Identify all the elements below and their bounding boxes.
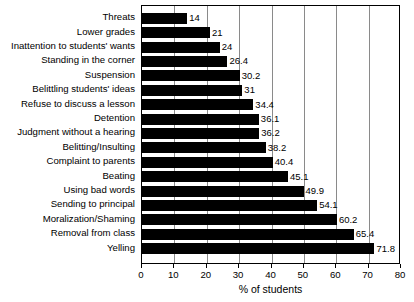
bar-value-label: 21 (210, 26, 223, 39)
x-tick-label-10: 10 (168, 269, 179, 281)
bar-value-label: 71.8 (374, 242, 395, 255)
x-tick-mark-30 (238, 264, 239, 268)
bar-value-label: 38.2 (266, 141, 287, 154)
bar (142, 171, 288, 182)
x-tick-label-70: 70 (362, 269, 373, 281)
bar (142, 13, 187, 24)
x-tick-label-80: 80 (395, 269, 406, 281)
bar (142, 85, 242, 96)
bar-value-label: 14 (187, 11, 200, 24)
x-axis-title: % of students (141, 283, 400, 295)
x-tick-label-40: 40 (265, 269, 276, 281)
bars-layer: 14212426.430.23134.436.136.238.240.445.1… (142, 6, 399, 263)
bar (142, 99, 253, 110)
bar (142, 128, 259, 139)
bar (142, 70, 240, 81)
x-tick-mark-60 (335, 264, 336, 268)
bar-value-label: 65.4 (354, 227, 375, 240)
bar-value-label: 45.1 (288, 170, 309, 183)
x-tick-label-60: 60 (330, 269, 341, 281)
x-tick-label-0: 0 (138, 269, 143, 281)
bar (142, 157, 273, 168)
x-tick-mark-80 (400, 264, 401, 268)
bar-value-label: 31 (242, 83, 255, 96)
bar-value-label: 26.4 (227, 54, 248, 67)
bar-chart: ThreatsLower gradesInattention to studen… (0, 0, 414, 302)
bar (142, 200, 317, 211)
bar-value-label: 36.1 (259, 112, 280, 125)
category-label: Yelling (107, 240, 135, 256)
x-tick-mark-70 (368, 264, 369, 268)
x-tick-mark-50 (303, 264, 304, 268)
x-tick-label-20: 20 (200, 269, 211, 281)
bar (142, 186, 304, 197)
x-tick-label-30: 30 (233, 269, 244, 281)
bar (142, 114, 259, 125)
bar-value-label: 34.4 (253, 98, 274, 111)
x-axis: 01020304050607080 (141, 264, 400, 284)
x-tick-mark-10 (173, 264, 174, 268)
bar-value-label: 60.2 (337, 213, 358, 226)
bar-value-label: 36.2 (259, 126, 280, 139)
bar-value-label: 30.2 (240, 69, 261, 82)
bar-value-label: 49.9 (304, 184, 325, 197)
bar-value-label: 40.4 (273, 155, 294, 168)
bar (142, 42, 220, 53)
bar (142, 243, 374, 254)
bar-value-label: 54.1 (317, 198, 338, 211)
bar-row: 71.8 (142, 241, 399, 257)
bar-value-label: 24 (220, 40, 233, 53)
plot-area: 14212426.430.23134.436.136.238.240.445.1… (141, 5, 400, 264)
x-tick-mark-0 (141, 264, 142, 268)
bar (142, 27, 210, 38)
bar (142, 214, 337, 225)
x-tick-mark-40 (271, 264, 272, 268)
bar (142, 56, 227, 67)
x-tick-label-50: 50 (298, 269, 309, 281)
bar (142, 229, 354, 240)
x-tick-mark-20 (206, 264, 207, 268)
bar (142, 142, 266, 153)
category-axis-labels: ThreatsLower gradesInattention to studen… (0, 5, 138, 264)
